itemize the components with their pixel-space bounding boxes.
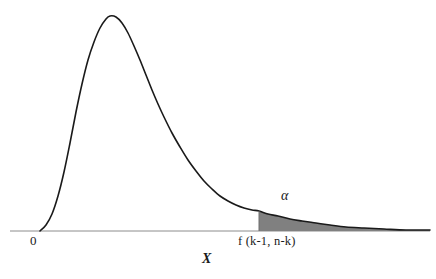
distribution-plot [0,0,436,279]
origin-label: 0 [30,234,37,247]
density-curve [40,16,430,231]
f-distribution-figure: 0 α f (k-1, n-k) X [0,0,436,279]
critical-value-label: f (k-1, n-k) [238,235,296,248]
alpha-label: α [281,189,288,203]
alpha-shaded-region [40,16,430,231]
x-axis-label: X [202,252,211,266]
